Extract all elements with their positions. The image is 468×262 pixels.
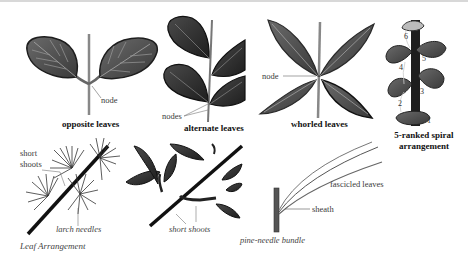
title-spiral-line1: 5-ranked spiral (380, 131, 468, 140)
label-nodes-alternate: nodes (162, 112, 182, 121)
label-node-opposite: node (101, 96, 118, 105)
spiral-number-3: 3 (420, 88, 424, 96)
label-short-shoots: short shoots (169, 225, 210, 234)
label-shoots-larch: shoots (20, 160, 42, 169)
spiral-arrangement-drawing (386, 20, 446, 126)
spiral-number-2: 2 (398, 100, 402, 108)
spiral-number-6: 6 (404, 33, 408, 41)
title-alternate-leaves: alternate leaves (184, 124, 244, 133)
figure-caption: Leaf Arrangement (20, 242, 86, 251)
label-sheath: sheath (312, 205, 334, 214)
label-short-larch: short (20, 149, 37, 158)
whorled-leaves-drawing (260, 20, 374, 118)
spiral-number-1: 1 (427, 117, 431, 125)
spiral-number-5: 5 (422, 55, 426, 63)
label-larch-needles: larch needles (56, 225, 101, 234)
opposite-leaves-drawing (27, 34, 157, 115)
short-shoots-drawing (126, 144, 242, 226)
title-pine-needle-bundle: pine-needle bundle (240, 236, 305, 245)
title-opposite-leaves: opposite leaves (62, 120, 119, 129)
label-fascicled-leaves: fascicled leaves (330, 180, 384, 189)
label-node-whorled: node (262, 72, 279, 81)
larch-drawing (26, 138, 120, 234)
title-spiral-line2: arrangement (380, 142, 468, 151)
alternate-leaves-drawing (164, 17, 245, 123)
spiral-number-4: 4 (399, 64, 403, 72)
title-whorled-leaves: whorled leaves (291, 120, 348, 129)
